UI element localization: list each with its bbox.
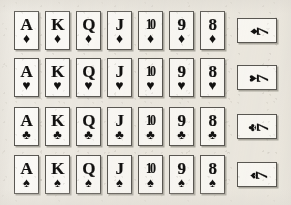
heart-suit-icon: ♥ bbox=[53, 80, 61, 92]
spade-suit-icon: ♠ bbox=[147, 177, 154, 189]
card-rank: 8 bbox=[209, 64, 217, 79]
card-row-diamond: A ♦ K ♦ Q ♦ J ♦ 10 ♦ 9 ♦ bbox=[14, 11, 277, 51]
diamond-suit-icon: ♦ bbox=[116, 33, 123, 45]
club-suit-icon: ♣ bbox=[53, 129, 62, 141]
card-rank: 7 bbox=[254, 171, 269, 180]
card-diamond-9[interactable]: 9 ♦ bbox=[169, 11, 194, 50]
card-chart-page: A ♦ K ♦ Q ♦ J ♦ 10 ♦ 9 ♦ bbox=[0, 0, 291, 205]
card-seven-inner: ♣ 7 bbox=[238, 115, 277, 139]
heart-suit-icon: ♥ bbox=[22, 80, 30, 92]
card-rank: 8 bbox=[209, 113, 217, 128]
club-suit-icon: ♣ bbox=[177, 129, 186, 141]
card-diamond-10[interactable]: 10 ♦ bbox=[138, 11, 163, 50]
card-diamond-j[interactable]: J ♦ bbox=[107, 11, 132, 50]
card-club-k[interactable]: K ♣ bbox=[45, 107, 70, 146]
diamond-suit-icon: ♦ bbox=[209, 33, 216, 45]
card-rank: 10 bbox=[146, 64, 154, 79]
card-club-j[interactable]: J ♣ bbox=[107, 107, 132, 146]
card-seven-inner: ♥ 7 bbox=[238, 66, 277, 90]
card-rank: J bbox=[116, 17, 124, 32]
card-rank: A bbox=[21, 161, 33, 176]
card-rank: 8 bbox=[209, 17, 217, 32]
card-rank: J bbox=[116, 64, 124, 79]
card-rank: Q bbox=[82, 113, 95, 128]
card-rank: K bbox=[51, 64, 64, 79]
card-rank: A bbox=[21, 113, 33, 128]
card-rank: K bbox=[51, 161, 64, 176]
heart-suit-icon: ♥ bbox=[115, 80, 123, 92]
card-seven-inner: ♠ 7 bbox=[238, 163, 277, 187]
card-spade-a[interactable]: A ♠ bbox=[14, 155, 39, 194]
card-rank: 10 bbox=[146, 17, 154, 32]
card-rank: K bbox=[51, 113, 64, 128]
card-rank: Q bbox=[82, 17, 95, 32]
card-rank: 7 bbox=[255, 123, 270, 132]
card-rank: A bbox=[21, 17, 33, 32]
card-spade-9[interactable]: 9 ♠ bbox=[169, 155, 194, 194]
spade-suit-icon: ♠ bbox=[85, 177, 92, 189]
card-heart-j[interactable]: J ♥ bbox=[107, 58, 132, 97]
diamond-suit-icon: ♦ bbox=[23, 33, 30, 45]
spade-suit-icon: ♠ bbox=[54, 177, 61, 189]
club-suit-icon: ♣ bbox=[146, 129, 155, 141]
card-heart-q[interactable]: Q ♥ bbox=[76, 58, 101, 97]
card-diamond-a[interactable]: A ♦ bbox=[14, 11, 39, 50]
card-spade-10[interactable]: 10 ♠ bbox=[138, 155, 163, 194]
club-suit-icon: ♣ bbox=[208, 129, 217, 141]
card-grid: A ♦ K ♦ Q ♦ J ♦ 10 ♦ 9 ♦ bbox=[0, 0, 291, 205]
card-diamond-7-sideways[interactable]: ♦ 7 bbox=[237, 18, 277, 43]
card-spade-q[interactable]: Q ♠ bbox=[76, 155, 101, 194]
card-rank: 9 bbox=[178, 161, 186, 176]
card-heart-k[interactable]: K ♥ bbox=[45, 58, 70, 97]
card-club-8[interactable]: 8 ♣ bbox=[200, 107, 225, 146]
card-rank: 10 bbox=[146, 113, 154, 128]
spade-suit-icon: ♠ bbox=[178, 177, 185, 189]
card-club-10[interactable]: 10 ♣ bbox=[138, 107, 163, 146]
card-heart-a[interactable]: A ♥ bbox=[14, 58, 39, 97]
card-spade-8[interactable]: 8 ♠ bbox=[200, 155, 225, 194]
card-diamond-q[interactable]: Q ♦ bbox=[76, 11, 101, 50]
card-heart-10[interactable]: 10 ♥ bbox=[138, 58, 163, 97]
card-rank: 7 bbox=[254, 27, 269, 36]
spade-suit-icon: ♠ bbox=[23, 177, 30, 189]
card-rank: K bbox=[51, 17, 64, 32]
diamond-suit-icon: ♦ bbox=[147, 33, 154, 45]
card-club-a[interactable]: A ♣ bbox=[14, 107, 39, 146]
card-rank: Q bbox=[82, 161, 95, 176]
card-rank: 10 bbox=[146, 161, 154, 176]
card-rank: 7 bbox=[255, 74, 270, 83]
heart-suit-icon: ♥ bbox=[208, 80, 216, 92]
club-suit-icon: ♣ bbox=[22, 129, 31, 141]
diamond-suit-icon: ♦ bbox=[85, 33, 92, 45]
spade-suit-icon: ♠ bbox=[116, 177, 123, 189]
heart-suit-icon: ♥ bbox=[177, 80, 185, 92]
heart-suit-icon: ♥ bbox=[84, 80, 92, 92]
card-club-7-sideways[interactable]: ♣ 7 bbox=[237, 114, 277, 139]
diamond-suit-icon: ♦ bbox=[54, 33, 61, 45]
card-heart-9[interactable]: 9 ♥ bbox=[169, 58, 194, 97]
club-suit-icon: ♣ bbox=[115, 129, 124, 141]
card-rank: J bbox=[116, 113, 124, 128]
card-rank: 9 bbox=[178, 64, 186, 79]
card-club-9[interactable]: 9 ♣ bbox=[169, 107, 194, 146]
card-diamond-8[interactable]: 8 ♦ bbox=[200, 11, 225, 50]
heart-suit-icon: ♥ bbox=[146, 80, 154, 92]
card-rank: 9 bbox=[178, 17, 186, 32]
card-diamond-k[interactable]: K ♦ bbox=[45, 11, 70, 50]
card-rank: Q bbox=[82, 64, 95, 79]
card-heart-7-sideways[interactable]: ♥ 7 bbox=[237, 65, 277, 90]
card-rank: 8 bbox=[209, 161, 217, 176]
card-row-spade: A ♠ K ♠ Q ♠ J ♠ 10 ♠ 9 ♠ bbox=[14, 155, 277, 195]
diamond-suit-icon: ♦ bbox=[178, 33, 185, 45]
card-rank: A bbox=[21, 64, 33, 79]
card-row-heart: A ♥ K ♥ Q ♥ J ♥ 10 ♥ 9 ♥ bbox=[14, 58, 277, 98]
card-seven-inner: ♦ 7 bbox=[238, 19, 277, 43]
card-spade-k[interactable]: K ♠ bbox=[45, 155, 70, 194]
card-rank: 9 bbox=[178, 113, 186, 128]
card-spade-7-sideways[interactable]: ♠ 7 bbox=[237, 162, 277, 187]
club-suit-icon: ♣ bbox=[84, 129, 93, 141]
card-spade-j[interactable]: J ♠ bbox=[107, 155, 132, 194]
card-heart-8[interactable]: 8 ♥ bbox=[200, 58, 225, 97]
card-club-q[interactable]: Q ♣ bbox=[76, 107, 101, 146]
card-rank: J bbox=[116, 161, 124, 176]
